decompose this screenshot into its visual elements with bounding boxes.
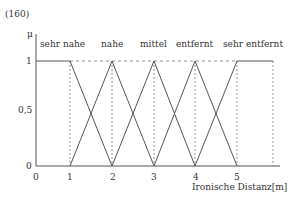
x-axis-label: Ironische Distanz[m] (192, 182, 287, 192)
mf-sehr-entfernt (195, 61, 273, 166)
x-tick-4: 4 (193, 172, 199, 182)
vertical-guides (70, 61, 273, 166)
x-tick-5: 5 (234, 172, 240, 182)
mf-mittel (112, 61, 195, 166)
y-axis-label: μ (27, 29, 33, 39)
y-tick-0: 0 (26, 161, 32, 171)
y-tick-1: 1 (26, 56, 32, 66)
label-nahe: nahe (101, 39, 123, 49)
x-tick-2: 2 (110, 172, 116, 182)
label-entfernt: entfernt (176, 39, 213, 49)
x-tick-3: 3 (151, 172, 157, 182)
x-tick-0: 0 (33, 172, 39, 182)
mf-entfernt (154, 61, 237, 166)
y-tick-0-5: 0,5 (18, 105, 32, 115)
label-sehr-nahe: sehr nahe (40, 39, 85, 49)
membership-function-chart (0, 0, 292, 203)
x-tick-1: 1 (67, 172, 73, 182)
label-sehr-entfernt: sehr entfernt (223, 39, 283, 49)
mf-sehr-nahe (36, 61, 112, 166)
label-mittel: mittel (140, 39, 167, 49)
